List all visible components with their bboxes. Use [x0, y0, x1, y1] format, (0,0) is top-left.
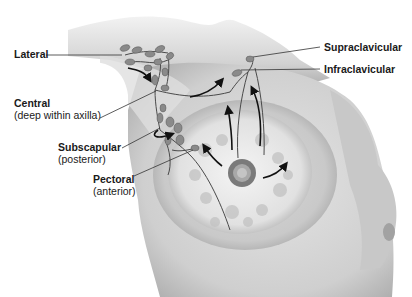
right-nipple	[383, 223, 395, 241]
label-lateral: Lateral	[14, 48, 48, 60]
label-subscapular-subtitle: (posterior)	[58, 153, 121, 165]
label-pectoral-subtitle: (anterior)	[93, 185, 136, 197]
label-supraclavicular: Supraclavicular	[324, 41, 402, 53]
nipple	[237, 168, 247, 178]
label-subscapular: Subscapular (posterior)	[58, 141, 121, 165]
label-pectoral: Pectoral (anterior)	[93, 173, 136, 197]
label-central-subtitle: (deep within axilla)	[14, 109, 101, 121]
axillary-lymph-node-diagram: Lateral Central (deep within axilla) Sub…	[0, 0, 412, 297]
label-subscapular-title: Subscapular	[58, 141, 121, 153]
label-central-title: Central	[14, 97, 101, 109]
label-pectoral-title: Pectoral	[93, 173, 136, 185]
label-central: Central (deep within axilla)	[14, 97, 101, 121]
label-infraclavicular: Infraclavicular	[324, 63, 395, 75]
